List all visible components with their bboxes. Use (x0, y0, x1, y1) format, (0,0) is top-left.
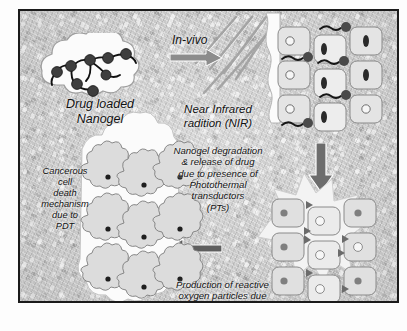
label-reactive-oxygen-production: Production of reactive oxygen particles … (145, 279, 300, 303)
label-cancerous-cell-death: Cancerous cell death mechanism due to PD… (30, 166, 100, 232)
label-near-infrared-radiation: Near Infrared radition (NIR) (163, 103, 273, 130)
label-nanogel-degradation: Nanogel degradation & release of drug du… (148, 145, 288, 213)
arrow-right-icon (170, 49, 222, 67)
drug-loaded-nanogel-cloud (34, 33, 152, 105)
figure-canvas: Drug loaded Nanogel In-vivo Near Infrare… (0, 0, 407, 331)
diagram-frame: Drug loaded Nanogel In-vivo Near Infrare… (18, 9, 399, 303)
label-drug-loaded-nanogel: Drug loaded Nanogel (44, 97, 156, 127)
label-in-vivo: In-vivo (172, 33, 207, 47)
